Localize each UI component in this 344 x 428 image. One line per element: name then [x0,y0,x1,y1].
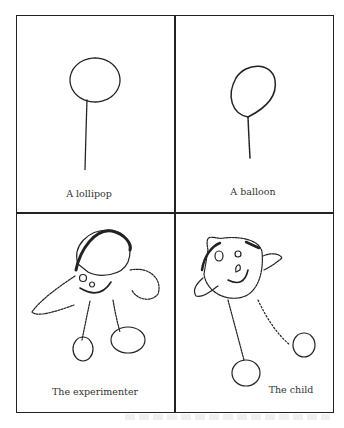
caption-balloon: A balloon [230,186,275,197]
child-figure-drawing [194,237,315,386]
bleed-through-text [125,414,330,420]
drawings [0,0,344,428]
lollipop-drawing [70,58,120,170]
caption-lollipop: A lollipop [66,188,112,199]
caption-child: The child [269,384,314,395]
experimenter-figure-drawing [32,230,159,361]
caption-experimenter: The experimenter [52,386,138,397]
balloon-drawing [231,66,275,158]
